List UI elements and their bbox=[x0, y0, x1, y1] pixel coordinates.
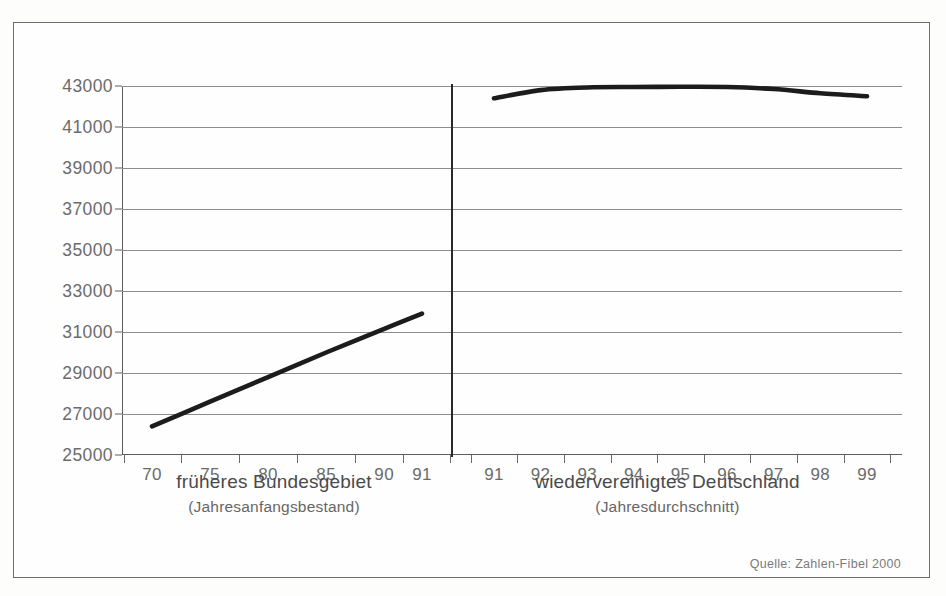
y-tick-label: 29000 bbox=[62, 363, 113, 384]
x-tick-mark bbox=[403, 455, 404, 463]
y-tick-mark bbox=[115, 291, 122, 292]
y-tick-label: 27000 bbox=[62, 404, 113, 425]
x-tick-label: 99 bbox=[857, 465, 877, 485]
y-tick-mark bbox=[115, 455, 122, 456]
y-tick-label: 39000 bbox=[62, 158, 113, 179]
y-tick-mark bbox=[115, 86, 122, 87]
x-tick-mark bbox=[890, 455, 891, 463]
y-tick-mark bbox=[115, 414, 122, 415]
x-tick-mark bbox=[124, 455, 125, 463]
y-tick-label: 31000 bbox=[62, 322, 113, 343]
panel-caption-title: früheres Bundesgebiet bbox=[176, 471, 371, 493]
x-tick-label: 70 bbox=[142, 465, 162, 485]
y-tick-mark bbox=[115, 373, 122, 374]
x-tick-label: 91 bbox=[484, 465, 504, 485]
x-tick-label: 98 bbox=[811, 465, 831, 485]
panel-caption-subtitle: (Jahresanfangsbestand) bbox=[176, 498, 371, 516]
x-tick-mark bbox=[750, 455, 751, 463]
source-note: Quelle: Zahlen-Fibel 2000 bbox=[750, 557, 901, 571]
y-tick-mark bbox=[115, 332, 122, 333]
y-tick-label: 33000 bbox=[62, 281, 113, 302]
y-tick-mark bbox=[115, 168, 122, 169]
x-tick-mark bbox=[517, 455, 518, 463]
panel-caption-title: wiedervereinigtes Deutschland bbox=[535, 471, 800, 493]
x-tick-mark bbox=[239, 455, 240, 463]
x-tick-mark bbox=[355, 455, 356, 463]
x-tick-mark bbox=[471, 455, 472, 463]
x-tick-mark bbox=[181, 455, 182, 463]
panel-caption-wiedervereinigtes-deutschland: wiedervereinigtes Deutschland(Jahresdurc… bbox=[535, 471, 800, 516]
data-curves bbox=[122, 86, 902, 455]
x-tick-mark bbox=[297, 455, 298, 463]
x-tick-label: 90 bbox=[374, 465, 394, 485]
series-line-frueheres-bundesgebiet bbox=[152, 314, 422, 427]
chart-figure: 2500027000290003100033000350003700039000… bbox=[0, 0, 946, 596]
panel-caption-subtitle: (Jahresdurchschnitt) bbox=[535, 498, 800, 516]
x-tick-mark bbox=[657, 455, 658, 463]
y-tick-mark bbox=[115, 250, 122, 251]
y-tick-label: 41000 bbox=[62, 117, 113, 138]
series-line-wiedervereinigtes-deutschland bbox=[494, 87, 867, 99]
x-tick-mark bbox=[611, 455, 612, 463]
plot-area: 2500027000290003100033000350003700039000… bbox=[122, 86, 902, 455]
x-tick-mark bbox=[844, 455, 845, 463]
y-tick-label: 43000 bbox=[62, 76, 113, 97]
x-tick-mark bbox=[450, 455, 451, 463]
y-tick-mark bbox=[115, 127, 122, 128]
y-tick-mark bbox=[115, 209, 122, 210]
x-tick-mark bbox=[704, 455, 705, 463]
x-tick-mark bbox=[797, 455, 798, 463]
chart-frame: 2500027000290003100033000350003700039000… bbox=[13, 22, 930, 578]
x-tick-mark bbox=[564, 455, 565, 463]
y-tick-label: 25000 bbox=[62, 445, 113, 466]
y-tick-label: 35000 bbox=[62, 240, 113, 261]
panel-caption-frueheres-bundesgebiet: früheres Bundesgebiet(Jahresanfangsbesta… bbox=[176, 471, 371, 516]
x-tick-label: 91 bbox=[412, 465, 432, 485]
y-tick-label: 37000 bbox=[62, 199, 113, 220]
